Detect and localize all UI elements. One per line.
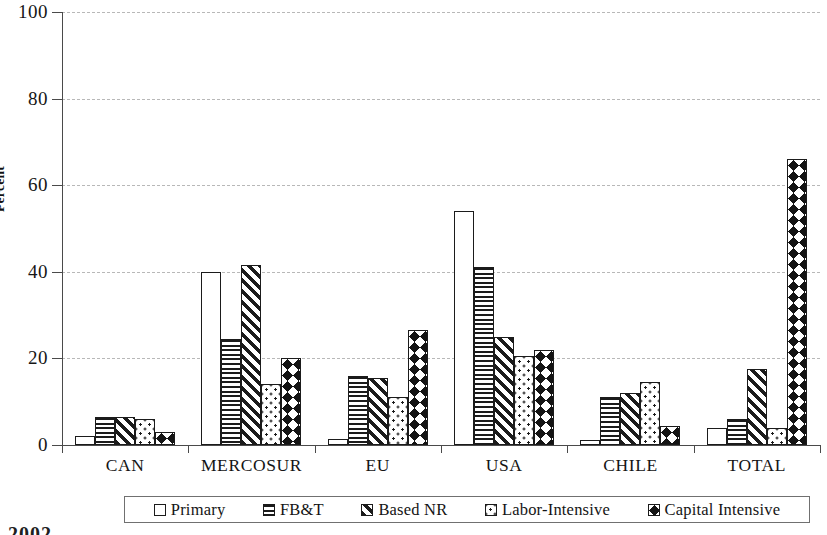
bar-group-bars xyxy=(567,12,693,445)
x-axis-label: MERCOSUR xyxy=(188,455,314,475)
bar xyxy=(474,267,494,445)
bar xyxy=(368,378,388,445)
bar xyxy=(660,426,680,445)
legend-label: FB&T xyxy=(280,501,324,518)
x-axis-tick xyxy=(567,445,568,453)
legend-swatch-icon xyxy=(485,504,497,516)
legend-swatch-icon xyxy=(361,504,373,516)
y-axis-label: 60 xyxy=(0,175,48,194)
bar-group xyxy=(441,12,567,445)
bar-group-bars xyxy=(62,12,188,445)
bar xyxy=(534,350,554,445)
bar xyxy=(494,337,514,445)
legend-swatch-icon xyxy=(154,504,166,516)
bar xyxy=(767,428,787,445)
legend-label: Primary xyxy=(171,501,226,518)
bar-group-bars xyxy=(694,12,820,445)
x-axis-label: CAN xyxy=(62,455,188,475)
bar-group-bars xyxy=(188,12,314,445)
bar xyxy=(580,440,600,445)
bar xyxy=(241,265,261,445)
bar-group-bars xyxy=(441,12,567,445)
bar-group xyxy=(567,12,693,445)
legend-item[interactable]: Capital Intensive xyxy=(648,501,781,518)
bar xyxy=(514,356,534,445)
bar xyxy=(261,384,281,445)
legend-item[interactable]: FB&T xyxy=(263,501,324,518)
legend-label: Labor-Intensive xyxy=(502,501,610,518)
bar xyxy=(155,432,175,445)
x-axis-tick xyxy=(441,445,442,453)
bar xyxy=(408,330,428,445)
bar xyxy=(787,159,807,445)
bar xyxy=(620,393,640,445)
bar xyxy=(640,382,660,445)
bar xyxy=(201,272,221,445)
bar-group xyxy=(315,12,441,445)
bar-group xyxy=(694,12,820,445)
bar xyxy=(707,428,727,445)
bar xyxy=(221,339,241,445)
bar xyxy=(727,419,747,445)
bar xyxy=(747,369,767,445)
bar xyxy=(328,439,348,445)
y-axis-label: 40 xyxy=(0,262,48,281)
bar xyxy=(135,419,155,445)
x-axis-tick xyxy=(62,445,63,453)
bar-group-bars xyxy=(315,12,441,445)
x-axis-tick xyxy=(188,445,189,453)
x-axis-tick xyxy=(315,445,316,453)
legend-item[interactable]: Based NR xyxy=(361,501,447,518)
x-axis-label: EU xyxy=(315,455,441,475)
legend-swatch-icon xyxy=(648,504,660,516)
bar xyxy=(454,211,474,445)
x-axis-label: TOTAL xyxy=(694,455,820,475)
legend-swatch-icon xyxy=(263,504,275,516)
bar xyxy=(75,436,95,445)
bar-chart: Percent 020406080100 CANMERCOSUREUUSACHI… xyxy=(0,0,827,535)
x-axis-label: CHILE xyxy=(567,455,693,475)
legend-label: Based NR xyxy=(378,501,447,518)
x-axis-tick xyxy=(820,445,821,453)
bar xyxy=(281,358,301,445)
legend-item[interactable]: Labor-Intensive xyxy=(485,501,610,518)
legend-label: Capital Intensive xyxy=(665,501,781,518)
footer-clipped-text: 2002 xyxy=(8,524,52,535)
x-axis-tick xyxy=(694,445,695,453)
chart-legend: PrimaryFB&TBased NRLabor-IntensiveCapita… xyxy=(124,496,810,523)
bar xyxy=(115,417,135,445)
y-axis-label: 100 xyxy=(0,2,48,21)
bar-group xyxy=(188,12,314,445)
x-axis-label: USA xyxy=(441,455,567,475)
legend-item[interactable]: Primary xyxy=(154,501,226,518)
bar xyxy=(95,417,115,445)
y-axis-label: 20 xyxy=(0,348,48,367)
y-axis-label: 80 xyxy=(0,89,48,108)
bar xyxy=(600,397,620,445)
bar xyxy=(388,397,408,445)
bar xyxy=(348,376,368,445)
bar-group xyxy=(62,12,188,445)
y-axis-label: 0 xyxy=(0,435,48,454)
